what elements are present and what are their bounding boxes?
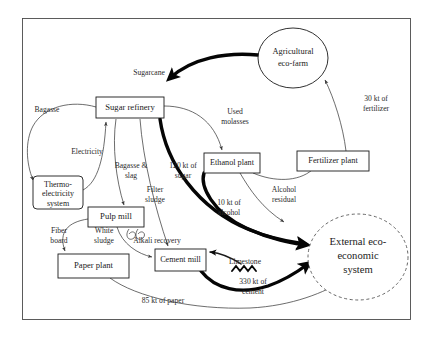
flow-label-used-molasses-line1: Used xyxy=(227,107,243,116)
node-label-paper-plant: Paper plant xyxy=(74,260,114,270)
node-paper-plant[interactable]: Paper plant xyxy=(58,254,129,278)
flow-label-sugar-output-line1: 120 kt of xyxy=(169,161,197,170)
flow-label-white-sludge-line2: sludge xyxy=(94,236,114,245)
node-label-external-line2: economic xyxy=(337,250,378,261)
node-label-thermo-line1: Thermo- xyxy=(44,180,72,189)
flow-label-limestone: Limestone xyxy=(229,257,262,266)
node-label-cement-mill: Cement mill xyxy=(160,255,201,264)
flow-diagram: Sugar refinery Agricultural eco-farm Eth… xyxy=(0,0,433,338)
flow-label-alcohol-output-line1: 10 kt of xyxy=(217,198,241,207)
node-pulp-mill[interactable]: Pulp mill xyxy=(88,207,144,227)
limestone-squiggle xyxy=(232,266,256,271)
node-cement-mill[interactable]: Cement mill xyxy=(155,249,206,271)
flow-label-electricity: Electricity xyxy=(71,147,103,156)
flow-sugar-output xyxy=(160,119,305,244)
flow-label-paper-output: 85 kt of paper xyxy=(142,296,185,305)
node-label-external-line1: External eco- xyxy=(330,236,387,247)
node-label-agricultural-eco-farm-line2: eco-farm xyxy=(278,59,309,68)
node-label-ethanol-plant: Ethanol plant xyxy=(210,158,255,167)
flow-electricity xyxy=(83,122,106,190)
node-ethanol-plant[interactable]: Ethanol plant xyxy=(204,153,260,173)
flow-label-fertilizer-output-line1: 30 kt of xyxy=(364,94,388,103)
flow-used-molasses xyxy=(164,106,222,150)
node-label-agricultural-eco-farm-line1: Agricultural xyxy=(273,47,315,56)
node-label-fertilizer-plant: Fertilizer plant xyxy=(308,156,358,165)
flow-label-bagasse-slag-line1: Bagasse & xyxy=(115,161,148,170)
flow-label-alkali-recovery: Alkali recovery xyxy=(133,236,181,245)
flow-label-used-molasses-line2: molasses xyxy=(221,117,248,126)
flow-sugarcane xyxy=(170,54,258,78)
flow-label-filter-sludge-line1: Filter xyxy=(147,185,164,194)
node-thermo-electricity-system[interactable]: Thermo- electricity system xyxy=(33,176,83,209)
flow-label-fertilizer-output-line2: fertilizer xyxy=(363,104,390,113)
flow-label-white-sludge-line1: White xyxy=(95,226,114,235)
node-label-thermo-line3: system xyxy=(47,199,70,208)
node-label-thermo-line2: electricity xyxy=(42,189,74,198)
flow-label-bagasse: Bagasse xyxy=(35,105,61,114)
flow-label-alcohol-residual-line2: residual xyxy=(272,195,296,204)
flow-label-alcohol-output-line2: alcohol xyxy=(218,208,240,217)
node-label-external-line3: system xyxy=(343,264,373,275)
flow-label-fiber-board-line2: board xyxy=(50,236,67,245)
flow-label-fiber-board-line1: Fiber xyxy=(51,226,68,235)
flow-label-filter-sludge-line2: sludge xyxy=(145,195,165,204)
node-fertilizer-plant[interactable]: Fertilizer plant xyxy=(297,151,369,171)
flow-label-sugarcane: Sugarcane xyxy=(133,68,165,77)
node-external-eco-economic-system[interactable]: External eco- economic system xyxy=(308,214,408,300)
flow-bagasse xyxy=(27,104,96,180)
node-label-pulp-mill: Pulp mill xyxy=(100,211,132,221)
flow-label-sugar-output-line2: sugar xyxy=(175,171,192,180)
flow-label-alcohol-residual-line1: Alcohol xyxy=(272,185,296,194)
node-label-sugar-refinery: Sugar refinery xyxy=(105,102,155,112)
diagram-canvas: Sugar refinery Agricultural eco-farm Eth… xyxy=(0,0,433,338)
flow-label-bagasse-slag-line2: slag xyxy=(125,171,137,180)
node-agricultural-eco-farm[interactable]: Agricultural eco-farm xyxy=(258,28,328,88)
flow-label-cement-output-line2: cement xyxy=(242,287,265,296)
node-sugar-refinery[interactable]: Sugar refinery xyxy=(96,97,164,118)
flow-fertilizer-output xyxy=(325,80,346,151)
flow-label-cement-output-line1: 330 kt of xyxy=(239,277,267,286)
